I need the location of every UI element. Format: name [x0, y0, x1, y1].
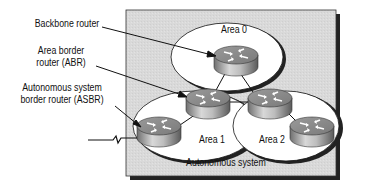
backbone-router-icon — [214, 46, 258, 76]
abr-router-2-icon — [248, 89, 292, 119]
label-asbr-line1: Autonomous system — [20, 82, 104, 94]
label-area-2: Area 2 — [254, 134, 289, 146]
label-abr-line2: router (ABR) — [30, 57, 92, 69]
label-area-1: Area 1 — [194, 134, 229, 146]
label-abr-line1: Area border — [30, 45, 92, 57]
abr-router-icon — [186, 89, 230, 119]
label-asbr-line2: border router (ASBR) — [20, 94, 104, 106]
label-backbone-router: Backbone router — [29, 18, 105, 30]
label-autonomous-system: Autonomous system — [175, 157, 277, 169]
area2-router-icon — [290, 117, 334, 147]
label-area-0: Area 0 — [216, 24, 251, 36]
asbr-router-icon — [137, 117, 181, 147]
